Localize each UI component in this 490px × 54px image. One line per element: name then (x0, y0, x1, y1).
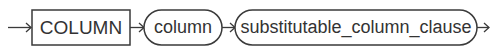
syntax-diagram: COLUMN column substitutable_column_claus… (0, 0, 490, 54)
column-label: column (154, 17, 212, 37)
keyword-column-node: COLUMN (32, 10, 130, 45)
connector-arrow-icon (130, 23, 144, 32)
column-node: column (144, 10, 222, 45)
substitutable-column-clause-node: substitutable_column_clause (235, 10, 477, 45)
exit-arrow-icon (477, 23, 489, 32)
keyword-column-label: COLUMN (40, 17, 122, 38)
substitutable-column-clause-label: substitutable_column_clause (240, 17, 471, 38)
entry-arrow-icon (8, 23, 31, 32)
connector-arrow-icon (222, 23, 235, 32)
